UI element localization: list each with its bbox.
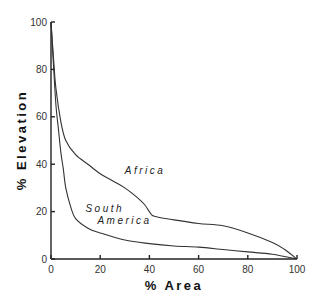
x-tick-label: 80 bbox=[242, 264, 254, 275]
x-tick-label: 0 bbox=[48, 264, 54, 275]
y-tick-label: 20 bbox=[36, 206, 48, 217]
label-south-america: SouthAmerica bbox=[85, 203, 151, 226]
y-tick-label: 60 bbox=[36, 111, 48, 122]
x-axis-title: % Area bbox=[145, 278, 204, 293]
x-tick-label: 100 bbox=[289, 264, 306, 275]
label-africa: Africa bbox=[124, 165, 166, 176]
y-tick-label: 80 bbox=[36, 64, 48, 75]
curve-south-america bbox=[51, 22, 297, 259]
x-tick-label: 40 bbox=[144, 264, 156, 275]
y-tick-label: 100 bbox=[30, 17, 47, 28]
curve-africa bbox=[51, 22, 297, 259]
y-tick-label: 40 bbox=[36, 159, 48, 170]
area-elevation-chart: 020406080100020406080100 AfricaSouthAmer… bbox=[0, 0, 319, 305]
x-tick-label: 60 bbox=[193, 264, 205, 275]
y-axis-title: % Elevation bbox=[14, 90, 29, 190]
y-tick-label: 0 bbox=[41, 254, 47, 265]
x-tick-label: 20 bbox=[95, 264, 107, 275]
curves bbox=[51, 22, 297, 259]
axes: 020406080100020406080100 bbox=[30, 17, 305, 276]
